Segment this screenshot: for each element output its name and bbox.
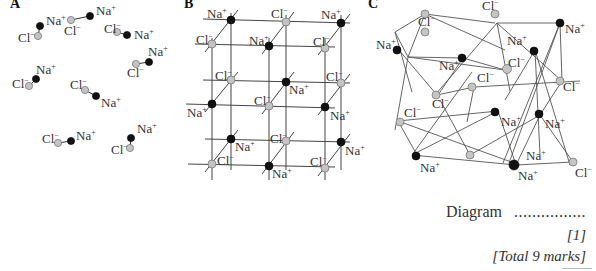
svg-text:Na+: Na+	[134, 27, 154, 42]
svg-text:Na+: Na+	[76, 128, 96, 143]
svg-text:Na+: Na+	[289, 82, 309, 97]
svg-text:Cl−: Cl−	[418, 14, 435, 29]
svg-text:Na+: Na+	[345, 143, 365, 158]
svg-text:Cl−: Cl−	[432, 96, 449, 111]
panel-a-label: A	[10, 0, 21, 11]
svg-text:Na+: Na+	[36, 62, 56, 77]
svg-text:Na+: Na+	[207, 6, 227, 21]
svg-text:Na+: Na+	[148, 44, 168, 59]
svg-text:Na+: Na+	[272, 166, 292, 181]
margin-rule	[562, 268, 592, 269]
svg-text:Na+: Na+	[507, 33, 527, 48]
svg-text:Cl−: Cl−	[404, 105, 421, 120]
svg-text:Cl−: Cl−	[127, 65, 144, 80]
svg-text:Na+: Na+	[101, 95, 121, 110]
mark-allocation: [1]	[567, 227, 586, 244]
total-marks: [Total 9 marks]	[492, 248, 586, 265]
svg-text:Na+: Na+	[545, 116, 565, 131]
svg-text:Na+: Na+	[330, 108, 350, 123]
panel-b-label: B	[184, 0, 193, 11]
answer-blank[interactable]: ................	[514, 203, 586, 220]
svg-text:Cl−: Cl−	[217, 153, 234, 168]
svg-text:Na+: Na+	[235, 139, 255, 154]
svg-text:Cl−: Cl−	[111, 142, 128, 157]
svg-text:Na+: Na+	[187, 105, 207, 120]
answer-label: Diagram	[446, 203, 502, 220]
svg-text:Na+: Na+	[321, 7, 341, 22]
svg-text:Cl−: Cl−	[508, 55, 525, 70]
panel-c: C	[368, 0, 592, 183]
svg-text:Na+: Na+	[518, 168, 538, 183]
panel-b: B	[184, 0, 365, 181]
answer-line: Diagram ................	[446, 203, 586, 221]
svg-text:Na+: Na+	[96, 3, 116, 18]
svg-text:Cl−: Cl−	[575, 165, 592, 180]
svg-text:Na+: Na+	[565, 21, 585, 36]
panel-c-label: C	[368, 0, 378, 11]
svg-text:Cl−: Cl−	[563, 79, 580, 94]
sodium-chloride-structure-diagrams: A Na+ Cl− Na+ Cl− Cl− Na+ Na+ Cl− Na+ Cl…	[0, 0, 596, 200]
svg-text:Cl−: Cl−	[18, 30, 35, 45]
svg-text:Na+: Na+	[137, 121, 157, 136]
svg-text:Cl−: Cl−	[64, 23, 81, 38]
panel-a: A Na+ Cl− Na+ Cl− Cl− Na+ Na+ Cl− Na+ Cl…	[10, 0, 168, 157]
svg-text:Cl−: Cl−	[477, 70, 494, 85]
svg-text:Na+: Na+	[420, 160, 440, 175]
svg-text:Na+: Na+	[526, 148, 546, 163]
